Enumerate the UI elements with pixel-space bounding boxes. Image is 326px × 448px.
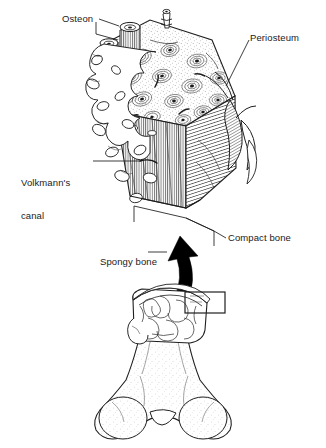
label-volkmanns-canal: Volkmann's canal — [21, 155, 70, 243]
whole-femur-bone — [95, 284, 232, 439]
label-volkmanns-canal-line2: canal — [21, 210, 70, 221]
label-periosteum: Periosteum — [250, 32, 299, 43]
bracket-compact-right — [186, 218, 214, 246]
magnified-bone-block — [85, 9, 256, 208]
bone-diagram-figure: Osteon Periosteum Volkmann's canal Compa… — [0, 0, 326, 448]
bracket-compact-left — [134, 206, 186, 218]
label-compact-bone: Compact bone — [228, 232, 291, 243]
label-spongy-bone: Spongy bone — [100, 256, 157, 267]
label-volkmanns-canal-line1: Volkmann's — [21, 177, 70, 188]
epiphysis-cutaway — [128, 284, 210, 344]
label-osteon: Osteon — [62, 13, 93, 24]
leader-periosteum — [226, 40, 249, 86]
leader-osteon — [99, 19, 119, 26]
